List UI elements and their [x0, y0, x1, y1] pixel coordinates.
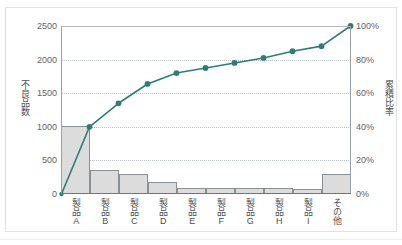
x-axis-label-slot: 製品H: [264, 198, 293, 242]
left-axis-tick-label: 1000: [37, 122, 57, 132]
cumulative-line: [62, 26, 351, 194]
x-axis-label-slot: 製品A: [61, 198, 90, 242]
x-axis-label: 製品D: [158, 198, 167, 226]
x-axis-label: 製品E: [187, 198, 196, 226]
x-axis-label: 製品I: [303, 198, 312, 226]
left-axis-tick-label: 500: [42, 155, 57, 165]
right-axis-tick-label: 20%: [356, 155, 374, 165]
x-axis-label-slot: 製品B: [90, 198, 119, 242]
line-marker: [261, 55, 267, 61]
line-marker: [290, 48, 296, 54]
line-marker: [145, 81, 151, 87]
x-axis-label-slot: 製品F: [206, 198, 235, 242]
plot-top-border: [61, 26, 351, 27]
x-axis-labels: 製品A製品B製品C製品D製品E製品F製品G製品H製品Iその他: [61, 198, 351, 242]
left-axis-tick-label: 1500: [37, 88, 57, 98]
x-axis-label: 製品G: [245, 198, 254, 226]
x-axis-label-slot: 製品E: [177, 198, 206, 242]
chart-frame: 不良品数 累積比率 05001000150020002500 0%20%40%6…: [5, 7, 397, 232]
x-axis-label-slot: 製品D: [148, 198, 177, 242]
plot-area: 05001000150020002500 0%20%40%60%80%100%: [61, 26, 351, 194]
pareto-chart-screenshot: 不良品数 累積比率 05001000150020002500 0%20%40%6…: [0, 0, 402, 245]
left-axis-tick-label: 2000: [37, 55, 57, 65]
right-axis-tick-label: 80%: [356, 55, 374, 65]
right-axis-tick-label: 100%: [356, 21, 379, 31]
right-axis-line: [350, 26, 351, 194]
left-axis-tick-label: 2500: [37, 21, 57, 31]
left-axis-title: 不良品数: [20, 80, 29, 116]
x-axis-label: 製品H: [274, 198, 283, 226]
cumulative-line-series: [61, 26, 351, 194]
x-axis-label-slot: 製品G: [235, 198, 264, 242]
line-marker: [232, 60, 238, 66]
bottom-divider: [0, 239, 402, 240]
right-axis-tick-label: 0%: [356, 189, 369, 199]
left-axis-line: [61, 26, 62, 194]
x-axis-line: [61, 193, 351, 194]
x-axis-label: 製品B: [100, 198, 109, 226]
top-caption: [6, 0, 176, 6]
x-axis-label: 製品A: [71, 198, 80, 226]
x-axis-label: 製品F: [216, 198, 225, 226]
left-axis-tick-label: 0: [52, 189, 57, 199]
line-marker: [87, 124, 93, 130]
x-axis-label-slot: 製品I: [293, 198, 322, 242]
x-axis-label: 製品C: [129, 198, 138, 226]
line-marker: [319, 43, 325, 49]
right-axis-tick-label: 60%: [356, 88, 374, 98]
right-axis-tick-label: 40%: [356, 122, 374, 132]
x-axis-label: その他: [332, 198, 341, 225]
line-marker: [203, 65, 209, 71]
x-axis-label-slot: その他: [322, 198, 351, 242]
line-marker: [174, 70, 180, 76]
right-axis-title: 累積比率: [384, 80, 393, 116]
x-axis-label-slot: 製品C: [119, 198, 148, 242]
line-marker: [116, 100, 122, 106]
